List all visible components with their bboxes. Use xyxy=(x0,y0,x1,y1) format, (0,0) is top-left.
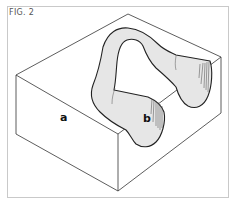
block-diagram: a b xyxy=(0,0,233,204)
region-label-a: a xyxy=(60,111,67,124)
region-label-b: b xyxy=(143,112,151,125)
